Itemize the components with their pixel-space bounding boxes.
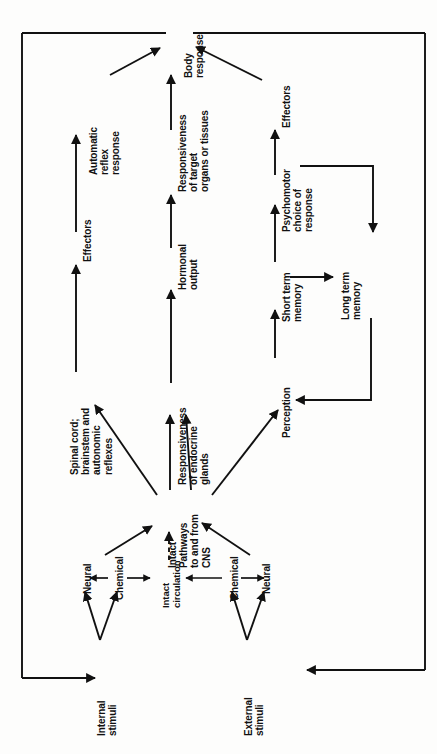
- flowchart-connectors: [0, 0, 437, 754]
- node-neural-right: Neural: [261, 563, 272, 594]
- edge-neural-left-to-pathways: [105, 526, 152, 555]
- node-responsiveness-target: Responsiveness of target organs or tissu…: [177, 110, 211, 192]
- node-chemical-left: Chemical: [114, 556, 125, 600]
- node-effectors-left: Effectors: [82, 220, 93, 262]
- node-intact-circulation: Intact circulation: [161, 561, 183, 608]
- node-neural-left: Neural: [82, 563, 93, 594]
- flowchart-figure: Body response Automatic reflex response …: [0, 0, 437, 754]
- edge-effectors-right-to-body-response: [196, 47, 262, 80]
- edge-group-reflex-chain: [76, 48, 160, 372]
- node-perception: Perception: [281, 387, 292, 438]
- edge-automatic-reflex-to-body-response: [110, 48, 160, 75]
- node-hormonal-output: Hormonal output: [177, 244, 199, 290]
- node-body-response: Body response: [183, 34, 205, 78]
- edge-long-term-to-perception: [296, 318, 371, 400]
- edge-pathways-to-perception: [212, 410, 278, 495]
- node-short-term-memory: Short term memory: [281, 272, 303, 322]
- node-chemical-right: Chemical: [229, 556, 240, 600]
- node-psychomotor-choice: Psychomotor choice of response: [281, 169, 315, 232]
- node-effectors-right: Effectors: [281, 86, 292, 128]
- edge-internal-to-neural: [85, 592, 100, 640]
- node-spinal-cord: Spinal cord; brainstem and autonomic ref…: [69, 408, 114, 475]
- node-automatic-reflex-response: Automatic reflex response: [88, 127, 122, 175]
- node-responsiveness-endocrine: Responsiveness of endocrine glands: [177, 407, 211, 485]
- node-long-term-memory: Long term memory: [340, 272, 362, 320]
- node-internal-stimuli: Internal stimuli: [96, 701, 118, 736]
- edge-external-to-neural: [247, 592, 264, 640]
- node-external-stimuli: External stimuli: [243, 697, 265, 736]
